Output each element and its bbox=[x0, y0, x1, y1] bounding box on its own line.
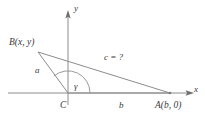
triangle-side-a bbox=[38, 52, 68, 93]
side-label-b: b bbox=[119, 101, 124, 110]
point-label-a: A(b, 0) bbox=[155, 101, 181, 111]
y-axis-label: y bbox=[74, 4, 78, 13]
point-label-c: C bbox=[60, 101, 66, 111]
vertex-dot-a bbox=[169, 92, 172, 95]
side-label-a: a bbox=[35, 66, 40, 75]
side-label-c-unknown: c = ? bbox=[104, 53, 123, 62]
point-label-b: B(x, y) bbox=[9, 38, 34, 48]
x-axis-label: x bbox=[194, 85, 198, 94]
geometry-figure: B(x, y) C A(b, 0) y x a b γ c = ? bbox=[0, 0, 205, 123]
angle-label-gamma: γ bbox=[74, 82, 78, 91]
